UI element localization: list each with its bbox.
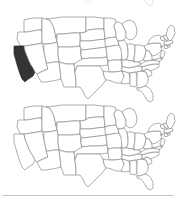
state-ut[interactable]: [44, 42, 59, 63]
us-map-fragment-svg: [0, 0, 176, 8]
state-tx[interactable]: [75, 154, 106, 187]
state-ct[interactable]: [164, 45, 168, 49]
state-tx[interactable]: [75, 66, 106, 99]
us-map-top-svg[interactable]: [0, 8, 176, 104]
state-wy[interactable]: [57, 121, 80, 135]
state-nm[interactable]: [59, 62, 76, 87]
bottom-states-group: [14, 105, 175, 190]
map-top[interactable]: [0, 8, 176, 104]
bottom-divider: [2, 195, 174, 196]
state-ma[interactable]: [164, 128, 173, 133]
state-al[interactable]: [130, 72, 137, 87]
state-al[interactable]: [130, 160, 137, 175]
state-tx[interactable]: [75, 0, 106, 3]
state-wy[interactable]: [57, 33, 80, 47]
state-nm[interactable]: [59, 150, 76, 175]
map-bottom[interactable]: [0, 96, 176, 192]
state-ct[interactable]: [164, 133, 168, 137]
state-fl[interactable]: [137, 174, 153, 190]
map-fragment-top: [0, 0, 176, 8]
top-states-group: [14, 17, 175, 102]
state-ut[interactable]: [44, 130, 59, 151]
state-fl[interactable]: [137, 0, 153, 6]
fragment-states-group: [14, 0, 175, 6]
state-nj[interactable]: [160, 50, 165, 58]
map-page: [0, 0, 176, 205]
state-mn[interactable]: [104, 106, 116, 127]
state-ma[interactable]: [164, 40, 173, 45]
state-mn[interactable]: [104, 18, 116, 39]
state-nj[interactable]: [160, 138, 165, 146]
us-map-bottom-svg[interactable]: [0, 96, 176, 192]
state-ar[interactable]: [108, 60, 122, 72]
state-ar[interactable]: [108, 148, 122, 160]
